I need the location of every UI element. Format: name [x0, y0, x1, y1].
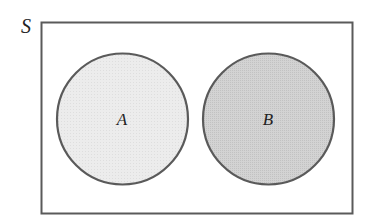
set-b: B [203, 54, 334, 185]
universe-label: S [21, 15, 31, 37]
set-b-label: B [263, 110, 274, 129]
set-a: A [57, 54, 188, 185]
set-a-label: A [116, 110, 128, 129]
venn-diagram: S A B [0, 0, 370, 220]
